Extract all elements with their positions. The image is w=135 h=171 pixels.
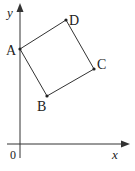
label-b: B [37,99,46,114]
y-axis-arrow-icon [17,3,24,12]
point-a [18,47,21,50]
label-c: C [97,57,106,72]
point-b [45,94,48,97]
y-axis-label: y [5,5,13,20]
x-axis-arrow-icon [121,141,130,148]
label-d: D [69,13,79,28]
origin-label: 0 [10,148,16,162]
point-d [64,18,67,21]
point-c [92,67,95,70]
square-abcd [20,20,94,96]
coordinate-diagram: A B C D y x 0 [0,0,135,171]
x-axis-label: x [111,147,118,162]
label-a: A [6,43,17,58]
